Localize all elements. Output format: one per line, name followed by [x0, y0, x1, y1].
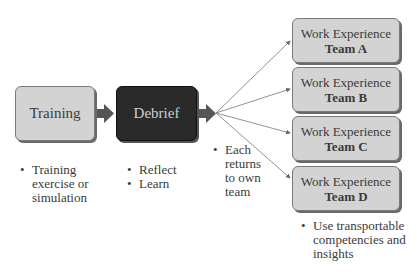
debrief-box: Debrief — [116, 86, 197, 141]
training-note: Training exercise or simulation — [20, 163, 105, 205]
debrief-label: Debrief — [134, 105, 180, 122]
team-c-name: Team C — [324, 139, 367, 154]
team-d-name: Team D — [324, 189, 367, 204]
fanout-notes: Each returns to own team — [213, 143, 268, 199]
training-label: Training — [29, 105, 80, 122]
team-c-title: Work Experience — [301, 124, 391, 139]
team-b-title: Work Experience — [301, 75, 391, 90]
debrief-note-learn: Learn — [127, 177, 197, 191]
line-to-team-a — [216, 41, 290, 113]
training-box: Training — [15, 86, 95, 141]
team-a-title: Work Experience — [301, 26, 391, 41]
arrow-debrief-to-teams — [197, 104, 216, 123]
debrief-note-reflect: Reflect — [127, 163, 197, 177]
team-d-title: Work Experience — [301, 174, 391, 189]
team-b-box: Work Experience Team B — [292, 67, 400, 112]
team-a-box: Work Experience Team A — [292, 18, 400, 63]
arrow-training-to-debrief — [95, 104, 114, 123]
teams-note: Use transportable competencies and insig… — [301, 219, 416, 261]
line-to-team-b — [216, 89, 290, 113]
debrief-notes: Reflect Learn — [127, 163, 197, 191]
team-d-box: Work Experience Team D — [292, 166, 400, 211]
team-b-name: Team B — [325, 90, 368, 105]
team-a-name: Team A — [325, 41, 368, 56]
teams-notes: Use transportable competencies and insig… — [301, 219, 416, 261]
fanout-note: Each returns to own team — [213, 143, 268, 199]
training-notes: Training exercise or simulation — [20, 163, 105, 205]
team-c-box: Work Experience Team C — [292, 116, 400, 161]
